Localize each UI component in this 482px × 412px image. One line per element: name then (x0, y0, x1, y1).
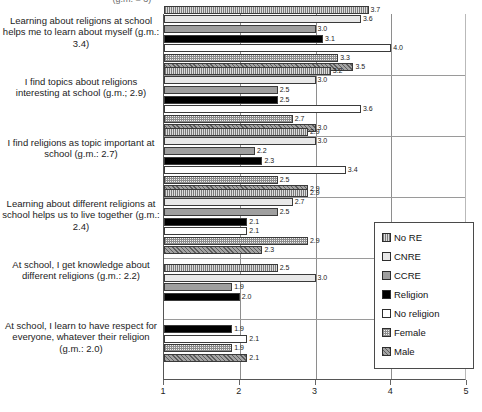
bar-ccre (164, 208, 278, 216)
bar-value-label: 2.1 (247, 218, 259, 226)
bar-female (164, 237, 308, 245)
bar-row: 3.3 (164, 54, 465, 62)
chart-legend: No RECNRECCREReligionNo religionFemaleMa… (374, 222, 474, 369)
bar-row: 2.9 (164, 189, 465, 197)
bar-religion (164, 325, 232, 333)
x-tick (315, 380, 316, 385)
bar-row: 3.2 (164, 67, 465, 75)
category-label: Learning about different religions at sc… (2, 198, 160, 233)
bar-value-label: 3.0 (316, 25, 328, 33)
bar-row: 2.7 (164, 115, 465, 123)
legend-label: Male (394, 346, 415, 357)
legend-item-no-re[interactable]: No RE (382, 228, 473, 247)
bar-value-label: 2.9 (308, 189, 320, 197)
bar-religion (164, 96, 278, 104)
bar-cnre (164, 137, 316, 145)
x-tick-label: 5 (463, 386, 468, 396)
bar-ccre (164, 283, 232, 291)
bar-religion (164, 218, 247, 226)
bar-value-label: 2.7 (293, 115, 305, 123)
bar-value-label: 3.3 (338, 54, 350, 62)
x-tick-label: 2 (236, 386, 241, 396)
legend-swatch-icon (382, 252, 391, 261)
bar-value-label: 3.0 (316, 274, 328, 282)
bar-religion (164, 157, 262, 165)
bar-ccre (164, 147, 255, 155)
bar-value-label: 3.6 (361, 15, 373, 23)
bar-value-label: 4.0 (391, 44, 403, 52)
bar-value-label: 3.0 (316, 137, 328, 145)
bar-value-label: 3.6 (361, 105, 373, 113)
bar-row: 2.3 (164, 157, 465, 165)
legend-item-ccre[interactable]: CCRE (382, 266, 473, 285)
bar-value-label: 2.5 (278, 208, 290, 216)
bar-cnre (164, 15, 361, 23)
bar-value-label: 2.7 (293, 198, 305, 206)
x-tick-label: 4 (388, 386, 393, 396)
bar-female (164, 344, 232, 352)
bar-ccre (164, 86, 278, 94)
legend-item-female[interactable]: Female (382, 323, 473, 342)
legend-item-male[interactable]: Male (382, 342, 473, 361)
bar-cnre (164, 76, 316, 84)
bar-row: 2.5 (164, 86, 465, 94)
bar-ccre (164, 25, 316, 33)
bar-religion (164, 35, 323, 43)
bar-no-re (164, 264, 278, 272)
bar-no-religion (164, 44, 391, 52)
bar-female (164, 115, 293, 123)
legend-label: CCRE (394, 270, 421, 281)
bar-row: 2.9 (164, 128, 465, 136)
category-label: I find topics about religions interestin… (2, 76, 160, 99)
bar-value-label: 3.1 (323, 35, 335, 43)
bar-no-re (164, 67, 331, 75)
bar-value-label: 1.9 (232, 283, 244, 291)
bar-row: 3.0 (164, 76, 465, 84)
bar-value-label: 3.7 (369, 6, 381, 14)
bar-value-label: 2.3 (262, 246, 274, 254)
x-tick-label: 3 (312, 386, 317, 396)
bar-value-label: 2.1 (247, 354, 259, 362)
legend-swatch-icon (382, 290, 391, 299)
bar-value-label: 2.5 (278, 264, 290, 272)
bar-value-label: 1.9 (232, 344, 244, 352)
bar-row: 3.0 (164, 25, 465, 33)
bar-row: 2.2 (164, 147, 465, 155)
bar-male (164, 246, 262, 254)
legend-swatch-icon (382, 271, 391, 280)
bar-no-religion (164, 335, 247, 343)
bar-value-label: 2.5 (278, 96, 290, 104)
bar-value-label: 2.5 (278, 176, 290, 184)
legend-swatch-icon (382, 347, 391, 356)
bar-row: 2.5 (164, 176, 465, 184)
legend-label: Religion (394, 289, 428, 300)
bar-row: 3.0 (164, 137, 465, 145)
legend-item-cnre[interactable]: CNRE (382, 247, 473, 266)
bar-value-label: 2.1 (247, 335, 259, 343)
legend-swatch-icon (382, 309, 391, 318)
bar-value-label: 2.9 (308, 128, 320, 136)
bar-value-label: 2.2 (255, 147, 267, 155)
legend-label: Female (394, 327, 426, 338)
legend-item-religion[interactable]: Religion (382, 285, 473, 304)
bar-row: 3.4 (164, 166, 465, 174)
bar-value-label: 1.9 (232, 325, 244, 333)
bar-religion (164, 293, 240, 301)
bar-value-label: 2.0 (240, 293, 252, 301)
bar-row: 3.6 (164, 15, 465, 23)
bar-female (164, 54, 338, 62)
category-label: At school, I get knowledge about differe… (2, 259, 160, 282)
legend-swatch-icon (382, 233, 391, 242)
bar-no-re (164, 128, 308, 136)
bar-cnre (164, 198, 293, 206)
x-axis: 12345 (163, 380, 466, 404)
chart-figure: (g.m. = 3) 3.73.63.03.14.03.33.53.23.02.… (0, 0, 482, 412)
bar-row: 2.5 (164, 96, 465, 104)
legend-item-no-religion[interactable]: No religion (382, 304, 473, 323)
bar-value-label: 3.4 (346, 166, 358, 174)
x-tick-label: 1 (160, 386, 165, 396)
bar-no-re (164, 189, 308, 197)
x-tick (239, 380, 240, 385)
legend-label: No RE (394, 232, 422, 243)
bar-value-label: 2.3 (262, 157, 274, 165)
